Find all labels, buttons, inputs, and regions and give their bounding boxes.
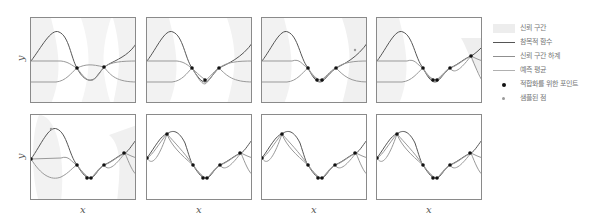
y-axis-label-row2: y [15, 154, 26, 160]
plot-panel-r1c3 [261, 17, 367, 103]
legend-item-fit-points: 적합화를 위한 포인트 [490, 79, 601, 91]
x-axis-label-col1: x [80, 204, 86, 215]
plot-area [31, 18, 136, 103]
x-axis-label-col4: x [426, 204, 432, 215]
legend-label: 신뢰 구간 하계 [520, 51, 560, 62]
plot-panel-r2c2 [146, 114, 252, 200]
plot-area [147, 18, 252, 103]
legend-item-predicted-mean: 예측 평균 [490, 65, 601, 77]
legend-item-sampled-points: 샘플된 점 [490, 93, 601, 105]
y-axis-label-row1: y [15, 56, 26, 62]
plot-area [31, 115, 136, 200]
legend-label: 신뢰 구간 [520, 23, 546, 34]
line-swatch-icon [493, 42, 515, 43]
plot-panel-r1c2 [146, 17, 252, 103]
plot-area [262, 18, 367, 103]
x-axis-label-col2: x [196, 204, 202, 215]
plot-area [262, 115, 367, 200]
legend-item-true-function: 참목적 함수 [490, 37, 601, 49]
legend-item-lower-bound: 신뢰 구간 하계 [490, 51, 601, 63]
band-swatch-icon [493, 24, 515, 33]
plot-panel-r1c4 [376, 17, 482, 103]
plot-panel-r1c1 [30, 17, 136, 103]
legend-label: 샘플된 점 [520, 93, 546, 104]
x-axis-label-col3: x [311, 204, 317, 215]
plot-area [147, 115, 252, 200]
line-swatch-icon [493, 70, 515, 71]
legend-label: 적합화를 위한 포인트 [520, 79, 578, 90]
legend-label: 예측 평균 [520, 65, 546, 76]
plot-panel-r2c4 [376, 114, 482, 200]
dot-marker-icon [502, 97, 505, 100]
plot-area [377, 115, 482, 200]
dot-marker-icon [502, 83, 506, 87]
plot-panel-r2c1 [30, 114, 136, 200]
line-swatch-icon [493, 56, 515, 57]
plot-panel-r2c3 [261, 114, 367, 200]
legend-label: 참목적 함수 [520, 37, 552, 48]
legend-item-confidence-interval: 신뢰 구간 [490, 23, 601, 35]
plot-area [377, 18, 482, 103]
